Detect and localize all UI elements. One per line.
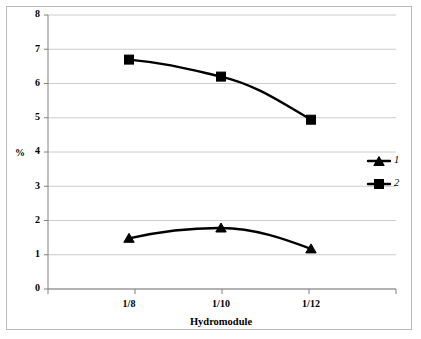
line-chart: 8 7 6 5 4 3 2 1 0 % 1/8 xyxy=(7,7,413,331)
y-tick-marks xyxy=(44,15,48,289)
y-tick-label: 6 xyxy=(35,77,40,88)
y-tick-label: 8 xyxy=(35,8,40,19)
y-tick-label: 0 xyxy=(35,282,40,293)
square-marker xyxy=(375,180,384,189)
gridlines xyxy=(48,15,396,289)
x-axis-title: Hydromodule xyxy=(190,316,253,327)
y-tick-label: 5 xyxy=(35,111,40,122)
chart-svg: 8 7 6 5 4 3 2 1 0 % 1/8 xyxy=(7,7,413,331)
legend-label: 1 xyxy=(394,154,399,165)
legend-entry-2[interactable]: 2 xyxy=(368,177,400,188)
y-tick-labels: 8 7 6 5 4 3 2 1 0 xyxy=(35,8,40,293)
y-tick-label: 4 xyxy=(35,145,40,156)
series-2-point-marker xyxy=(125,55,134,64)
x-tick-label: 1/12 xyxy=(302,298,320,309)
x-tick-labels: 1/8 1/10 1/12 xyxy=(123,298,320,309)
series-2-point-marker xyxy=(217,72,226,81)
x-tick-marks xyxy=(48,289,396,294)
figure-frame: 8 7 6 5 4 3 2 1 0 % 1/8 xyxy=(6,6,412,330)
y-tick-label: 3 xyxy=(35,180,40,191)
series-1 xyxy=(124,223,316,253)
legend-entry-1[interactable]: 1 xyxy=(368,154,399,165)
y-axis-title: % xyxy=(15,147,25,158)
y-tick-label: 7 xyxy=(35,43,40,54)
legend-label: 2 xyxy=(394,177,400,188)
series-2 xyxy=(125,55,316,124)
x-tick-label: 1/8 xyxy=(123,298,136,309)
series-2-point-marker xyxy=(307,115,316,124)
legend: 1 2 xyxy=(368,154,400,188)
y-tick-label: 1 xyxy=(35,248,40,259)
series-2-line xyxy=(129,60,311,120)
x-tick-label: 1/10 xyxy=(212,298,230,309)
y-tick-label: 2 xyxy=(35,214,40,225)
